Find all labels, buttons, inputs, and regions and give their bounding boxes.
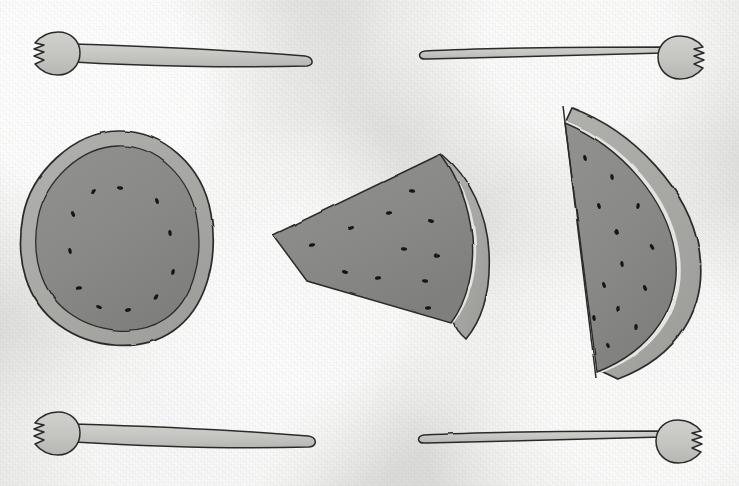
fork-bottom-left [34,412,315,455]
triangle-wedge [273,154,489,339]
fork-bottom-right-handle [419,431,662,443]
fork-bottom-right [419,420,702,463]
fork-bottom-left-handle [74,424,315,448]
fork-top-right [420,36,704,79]
fork-top-left-handle [74,44,312,67]
round-slice [21,131,214,345]
fork-bottom-right-head [656,420,702,463]
fork-top-right-head [658,36,704,79]
wedge-flesh [273,154,473,323]
fork-top-left-head [34,32,80,75]
illustration-canvas [0,0,739,486]
fork-top-left [34,32,312,75]
fork-top-right-handle [420,47,664,59]
fork-bottom-left-head [34,412,80,455]
half-moon-slice [563,106,701,379]
watermelon-illustration [0,0,739,486]
